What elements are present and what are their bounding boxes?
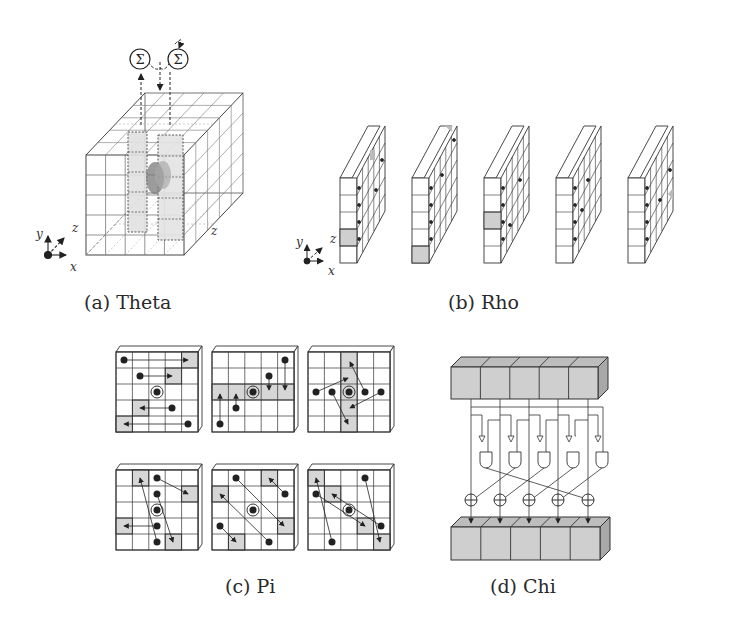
- svg-text:z: z: [329, 232, 337, 246]
- svg-text:y: y: [295, 235, 303, 249]
- svg-text:z: z: [71, 221, 79, 235]
- caption-theta: (a) Theta: [84, 291, 171, 313]
- sum-symbol-right: Σ: [173, 52, 182, 67]
- axes-icon-theta: [45, 236, 67, 259]
- pi-panel: [116, 346, 394, 550]
- caption-pi: (c) Pi: [225, 575, 275, 597]
- svg-text:x: x: [328, 264, 335, 278]
- svg-text:z: z: [210, 224, 218, 238]
- theta-panel: Σ Σ z y z x: [35, 40, 243, 274]
- figure-canvas: Σ Σ z y z x: [0, 0, 731, 627]
- svg-text:y: y: [35, 227, 43, 241]
- caption-chi: (d) Chi: [490, 575, 556, 597]
- sum-symbol-left: Σ: [135, 52, 144, 67]
- axes-icon-rho: [304, 245, 323, 264]
- svg-text:x: x: [70, 260, 77, 274]
- rho-panel: y z x: [295, 126, 673, 278]
- chi-panel: [451, 357, 610, 560]
- caption-rho: (b) Rho: [448, 291, 519, 313]
